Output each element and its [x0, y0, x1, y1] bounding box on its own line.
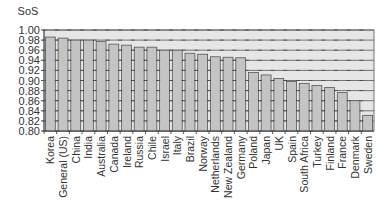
x-tick-label: Canada: [108, 136, 120, 173]
x-tick-label: Sweden: [362, 136, 374, 174]
x-tick-label: China: [70, 136, 82, 164]
x-tick-label: General (US): [57, 136, 69, 198]
x-tick-label: Spain: [286, 136, 298, 163]
x-tick-label: Netherlands: [209, 136, 221, 193]
bar-sweden: [363, 115, 373, 131]
bar-israel: [160, 50, 170, 131]
bar-korea: [45, 37, 55, 131]
x-tick-label: Germany: [235, 135, 247, 179]
sos-bar-chart: 1.000.980.960.940.920.900.880.860.840.82…: [0, 0, 392, 212]
x-tick-label: Russia: [133, 136, 145, 168]
bar-russia: [134, 47, 144, 131]
bar-india: [83, 40, 93, 131]
bar-chile: [147, 47, 157, 131]
x-tick-label: Japan: [260, 136, 272, 165]
bar-australia: [96, 42, 106, 131]
x-axis: KoreaGeneral (US)ChinaIndiaAustraliaCana…: [44, 131, 374, 198]
x-tick-label: Chile: [146, 136, 158, 160]
bar-norway: [198, 54, 208, 131]
bar-netherlands: [210, 57, 220, 131]
x-tick-label: New Zealand: [222, 136, 234, 198]
x-tick-label: Poland: [247, 136, 259, 169]
x-tick-label: Turkey: [311, 135, 323, 167]
x-tick-label: Finland: [324, 136, 336, 171]
bar-turkey: [312, 86, 322, 131]
bar-brazil: [185, 53, 195, 131]
bar-china: [71, 40, 81, 131]
x-tick-label: Brazil: [184, 136, 196, 162]
bar-spain: [287, 82, 297, 131]
y-axis-label: SoS: [18, 5, 39, 17]
bar-poland: [248, 72, 258, 131]
x-tick-label: Korea: [44, 136, 56, 164]
bar-canada: [109, 44, 119, 131]
bar-denmark: [350, 101, 360, 131]
x-tick-label: Israel: [159, 136, 171, 162]
x-tick-label: India: [82, 136, 94, 159]
y-tick-label: 0.80: [19, 125, 40, 137]
bar-general-us: [58, 38, 68, 131]
bar-germany: [236, 58, 246, 131]
bar-ireland: [122, 45, 132, 131]
x-tick-label: Norway: [197, 135, 209, 171]
bar-south-africa: [299, 84, 309, 131]
chart-canvas: 1.000.980.960.940.920.900.880.860.840.82…: [0, 0, 392, 212]
bar-italy: [172, 50, 182, 131]
x-tick-label: Ireland: [121, 136, 133, 168]
x-tick-label: UK: [273, 136, 285, 151]
x-tick-label: Australia: [95, 136, 107, 177]
x-tick-label: France: [336, 136, 348, 169]
x-tick-label: Italy: [171, 135, 183, 155]
y-axis: 1.000.980.960.940.920.900.880.860.840.82…: [19, 24, 44, 137]
bar-finland: [325, 88, 335, 131]
bar-japan: [261, 75, 271, 131]
x-tick-label: South Africa: [298, 136, 310, 193]
bar-new-zealand: [223, 57, 233, 131]
x-tick-label: Denmark: [349, 135, 361, 178]
bar-france: [337, 93, 347, 131]
bar-uk: [274, 78, 284, 131]
